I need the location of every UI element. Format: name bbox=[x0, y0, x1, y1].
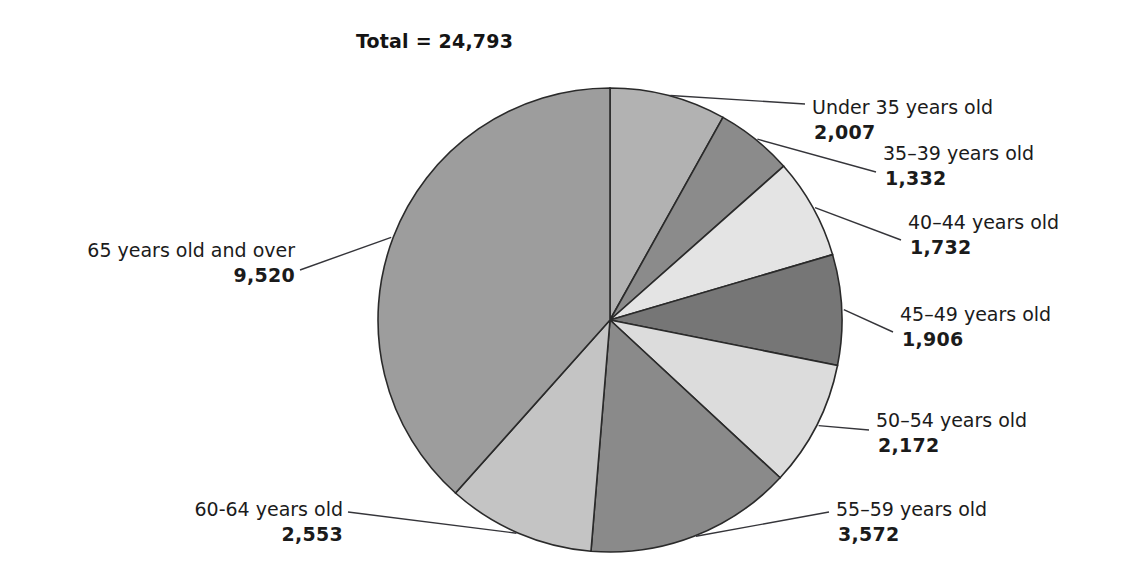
callout-value-text: 1,332 bbox=[883, 166, 1034, 191]
chart-canvas: Total = 24,793 Under 35 years old 2,007 … bbox=[0, 0, 1129, 586]
callout-under-35: Under 35 years old 2,007 bbox=[812, 95, 993, 145]
callout-label-text: 45–49 years old bbox=[900, 302, 1051, 327]
callout-value-text: 9,520 bbox=[0, 263, 295, 288]
callout-value-text: 2,172 bbox=[876, 433, 1027, 458]
callout-label-text: Under 35 years old bbox=[812, 95, 993, 120]
callout-value-text: 1,732 bbox=[908, 235, 1059, 260]
pie-slices bbox=[378, 88, 842, 552]
callout-label-text: 65 years old and over bbox=[0, 238, 295, 263]
callout-value-text: 3,572 bbox=[836, 522, 987, 547]
leader-line-3 bbox=[815, 208, 901, 240]
callout-55-59: 55–59 years old 3,572 bbox=[836, 497, 987, 547]
leader-line-8 bbox=[300, 237, 391, 270]
callout-40-44: 40–44 years old 1,732 bbox=[908, 210, 1059, 260]
callout-65-over: 65 years old and over 9,520 bbox=[0, 238, 295, 288]
leader-line-4 bbox=[844, 310, 893, 332]
callout-label-text: 55–59 years old bbox=[836, 497, 987, 522]
callout-45-49: 45–49 years old 1,906 bbox=[900, 302, 1051, 352]
callout-value-text: 1,906 bbox=[900, 327, 1051, 352]
callout-label-text: 60-64 years old bbox=[0, 497, 343, 522]
callout-label-text: 35–39 years old bbox=[883, 141, 1034, 166]
callout-value-text: 2,553 bbox=[0, 522, 343, 547]
callout-50-54: 50–54 years old 2,172 bbox=[876, 408, 1027, 458]
callout-60-64: 60-64 years old 2,553 bbox=[0, 497, 343, 547]
callout-label-text: 50–54 years old bbox=[876, 408, 1027, 433]
leader-line-5 bbox=[819, 426, 869, 430]
callout-35-39: 35–39 years old 1,332 bbox=[883, 141, 1034, 191]
callout-label-text: 40–44 years old bbox=[908, 210, 1059, 235]
